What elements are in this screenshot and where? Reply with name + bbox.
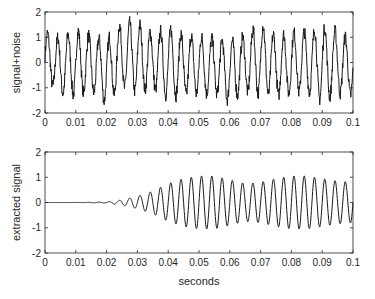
- bottom-axes: 00.010.020.030.040.050.060.070.080.090.1…: [10, 147, 360, 288]
- x-axis-label: seconds: [179, 275, 220, 287]
- x-tick-label: 0.1: [346, 257, 360, 268]
- y-tick-label: -2: [32, 108, 41, 119]
- x-tick-label: 0.1: [346, 117, 360, 128]
- x-tick-label: 0.09: [312, 257, 332, 268]
- x-tick-label: 0: [42, 117, 48, 128]
- y-tick-label: 1: [35, 172, 41, 183]
- x-tick-label: 0.07: [251, 257, 271, 268]
- x-tick-label: 0: [42, 257, 48, 268]
- y-tick-label: -2: [32, 248, 41, 259]
- x-tick-label: 0.03: [128, 257, 148, 268]
- y-tick-label: -1: [32, 222, 41, 233]
- x-tick-label: 0.08: [282, 117, 302, 128]
- x-tick-label: 0.01: [66, 117, 86, 128]
- x-tick-label: 0.04: [158, 257, 178, 268]
- x-tick-label: 0.02: [97, 117, 117, 128]
- y-tick-label: 0: [35, 57, 41, 68]
- y-tick-label: 2: [35, 7, 41, 18]
- x-tick-label: 0.08: [282, 257, 302, 268]
- x-tick-label: 0.06: [220, 257, 240, 268]
- top-y-axis-label: signal+noise: [10, 32, 22, 93]
- top-axes: 00.010.020.030.040.050.060.070.080.090.1…: [10, 7, 360, 129]
- x-tick-label: 0.09: [312, 117, 332, 128]
- y-tick-label: 2: [35, 147, 41, 158]
- x-tick-label: 0.04: [158, 117, 178, 128]
- x-tick-label: 0.05: [189, 257, 209, 268]
- x-tick-label: 0.05: [189, 117, 209, 128]
- x-tick-label: 0.01: [66, 257, 86, 268]
- y-tick-label: -1: [32, 82, 41, 93]
- x-tick-label: 0.07: [251, 117, 271, 128]
- y-tick-label: 1: [35, 32, 41, 43]
- x-tick-label: 0.02: [97, 257, 117, 268]
- y-tick-label: 0: [35, 197, 41, 208]
- x-tick-label: 0.06: [220, 117, 240, 128]
- x-tick-label: 0.03: [128, 117, 148, 128]
- bottom-y-axis-label: extracted signal: [10, 164, 22, 241]
- figure: 00.010.020.030.040.050.060.070.080.090.1…: [0, 0, 375, 299]
